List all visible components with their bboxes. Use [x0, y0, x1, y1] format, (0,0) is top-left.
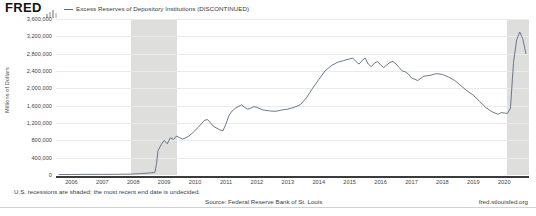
y-tick-label: 1,600,000: [6, 103, 52, 109]
legend-series-label: Excess Reserves of Depository Institutio…: [76, 5, 249, 13]
x-tick-label: 2007: [96, 179, 109, 185]
x-tick-label: 2006: [65, 179, 78, 185]
x-tick-label: 2014: [312, 179, 325, 185]
x-tick-label: 2010: [189, 179, 202, 185]
source-label: Source: Federal Reserve Bank of St. Loui…: [205, 197, 322, 207]
site-link[interactable]: fred.stlouisfed.org: [479, 197, 528, 207]
y-tick-label: 0: [6, 172, 52, 178]
x-tick-label: 2009: [158, 179, 171, 185]
fred-logo: FRED: [5, 1, 42, 15]
y-axis-ticks: 3,600,0003,200,0002,800,0002,400,0002,00…: [0, 17, 52, 175]
bottom-strip: [0, 208, 536, 216]
y-tick-label: 400,000: [6, 155, 52, 161]
plot-area: [56, 19, 529, 175]
chart-footer: U.S. recessions are shaded; the most rec…: [0, 187, 536, 208]
chart-card: FRED Excess Reserves of Depository Insti…: [0, 0, 536, 208]
chart-header: FRED Excess Reserves of Depository Insti…: [0, 0, 536, 17]
x-tick-label: 2018: [436, 179, 449, 185]
y-tick-label: 2,800,000: [6, 51, 52, 57]
x-tick-label: 2019: [467, 179, 480, 185]
series-line: [59, 32, 526, 175]
mini-bar-chart-icon: [46, 4, 58, 13]
y-tick-label: 3,600,000: [6, 16, 52, 22]
y-tick-label: 2,000,000: [6, 85, 52, 91]
y-tick-label: 800,000: [6, 137, 52, 143]
x-tick-label: 2015: [343, 179, 356, 185]
x-tick-label: 2017: [405, 179, 418, 185]
chart-legend: Excess Reserves of Depository Institutio…: [64, 3, 249, 15]
x-tick-label: 2016: [374, 179, 387, 185]
x-tick-label: 2011: [220, 179, 232, 185]
y-tick-label: 3,200,000: [6, 33, 52, 39]
y-tick-label: 1,200,000: [6, 120, 52, 126]
x-tick-label: 2020: [498, 179, 511, 185]
series-svg: [56, 19, 529, 175]
chart-body: Millions of Dollars 3,600,0003,200,0002,…: [0, 17, 536, 187]
x-axis-line: [56, 176, 529, 178]
y-tick-label: 2,400,000: [6, 68, 52, 74]
fred-chart-screenshot: FRED Excess Reserves of Depository Insti…: [0, 0, 536, 216]
x-tick-label: 2013: [282, 179, 295, 185]
x-tick-label: 2008: [127, 179, 140, 185]
x-tick-label: 2012: [251, 179, 264, 185]
legend-line-icon: [64, 9, 73, 10]
recession-note: U.S. recessions are shaded; the most rec…: [14, 187, 214, 197]
